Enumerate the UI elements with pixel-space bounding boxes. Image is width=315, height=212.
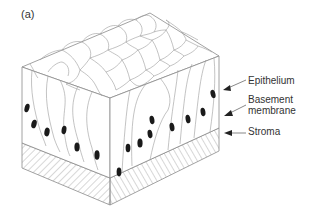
label-basement-membrane: Basement membrane <box>248 94 308 116</box>
arrow-epithelium <box>223 80 246 91</box>
label-stroma: Stroma <box>248 126 280 137</box>
arrow-stroma <box>224 130 246 136</box>
label-pointers <box>223 80 246 136</box>
label-epithelium: Epithelium <box>248 75 295 86</box>
arrow-basement-membrane <box>224 105 246 116</box>
